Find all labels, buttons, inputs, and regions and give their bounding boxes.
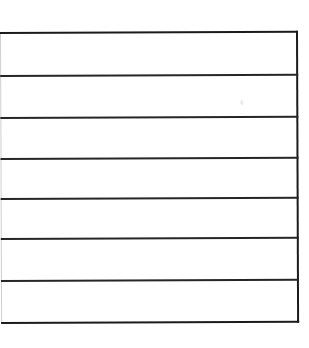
scanner-speck-artifact	[240, 100, 243, 105]
table-row[interactable]	[3, 199, 295, 238]
table-row[interactable]	[2, 118, 294, 158]
page-canvas	[0, 0, 309, 348]
table-row[interactable]	[3, 281, 295, 322]
table-row[interactable]	[2, 76, 294, 117]
table-row[interactable]	[3, 239, 295, 280]
table-row[interactable]	[2, 33, 294, 75]
table-row[interactable]	[2, 159, 294, 198]
blank-table	[0, 31, 299, 324]
